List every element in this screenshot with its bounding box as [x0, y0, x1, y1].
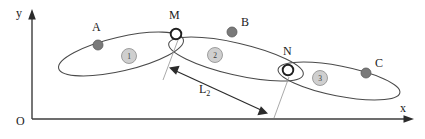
x-axis-label: x [400, 101, 406, 115]
badge-2-label: 2 [213, 51, 217, 60]
measurement-label-main: L [199, 82, 206, 96]
x-axis-arrow-icon [404, 115, 415, 123]
node-a-marker [93, 40, 103, 50]
node-b-group: B [227, 15, 249, 37]
dimension-arrow-line [176, 71, 261, 110]
measurement-label: L2 [199, 82, 210, 98]
origin-label: O [16, 114, 25, 128]
node-m-group: M [169, 8, 181, 39]
node-b-marker [227, 27, 237, 37]
badge-1-group: 1 [122, 49, 137, 64]
node-a-label: A [92, 20, 101, 34]
node-a-group: A [92, 20, 103, 50]
leader-line-from-n [274, 77, 289, 118]
badge-2-group: 2 [208, 48, 223, 63]
measurement-label-sub: 2 [206, 89, 210, 98]
node-b-label: B [241, 15, 249, 29]
dimension-arrow-head-right-icon [257, 106, 268, 115]
coordinate-diagram: y x O L2 1 2 [0, 0, 425, 139]
ellipse-3 [275, 54, 402, 107]
node-c-marker [361, 68, 371, 78]
node-n-marker [283, 65, 294, 76]
badge-3-label: 3 [318, 74, 322, 83]
badge-1-label: 1 [127, 52, 131, 61]
ellipse-1 [55, 23, 187, 85]
node-c-label: C [375, 56, 383, 70]
dimension-arrow-head-left-icon [169, 66, 180, 75]
diagram-canvas: y x O L2 1 2 [0, 0, 425, 139]
y-axis-arrow-icon [28, 9, 36, 20]
axes-group [28, 9, 414, 123]
y-axis-label: y [16, 6, 22, 20]
node-n-label: N [283, 44, 292, 58]
badge-3-group: 3 [313, 71, 328, 86]
node-m-marker [171, 29, 182, 40]
node-m-label: M [169, 8, 180, 22]
ellipse-2 [165, 28, 307, 90]
